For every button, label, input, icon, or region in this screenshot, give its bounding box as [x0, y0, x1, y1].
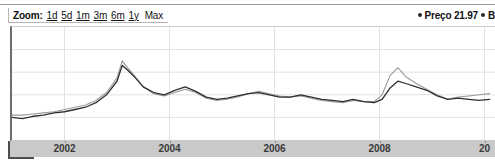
zoom-range-6m[interactable]: 6m	[111, 10, 125, 21]
corner-bracket	[8, 141, 34, 159]
x-axis-label-3: 2008	[368, 143, 390, 154]
series-line-preço	[12, 65, 490, 118]
zoom-range-max[interactable]: Max	[145, 10, 163, 21]
legend-bullet-icon	[481, 13, 485, 17]
x-axis-label-4: 20	[479, 143, 490, 154]
x-axis-label-1: 2004	[158, 143, 180, 154]
legend-label-secondary: B	[488, 10, 495, 21]
x-axis-tick	[65, 141, 66, 143]
x-axis-label-2: 2006	[263, 143, 285, 154]
plot-area[interactable]	[10, 26, 495, 141]
x-axis-tick	[170, 141, 171, 143]
legend-entry-secondary[interactable]: B	[481, 10, 495, 21]
top-divider	[0, 4, 495, 5]
zoom-range-5d[interactable]: 5d	[61, 10, 72, 21]
zoom-range-3m[interactable]: 3m	[94, 10, 108, 21]
zoom-range-1d[interactable]: 1d	[47, 10, 58, 21]
x-axis-band: 200220042006200820	[10, 141, 495, 157]
x-axis-tick	[380, 141, 381, 143]
x-axis-label-0: 2002	[53, 143, 75, 154]
legend-entry-price[interactable]: Preço 21.97	[418, 10, 478, 21]
stock-chart-widget: Zoom: 1d 5d 1m 3m 6m 1y Max Preço 21.97 …	[0, 0, 495, 165]
chart-svg	[12, 27, 495, 140]
legend-bullet-icon	[418, 13, 422, 17]
x-gridlines	[65, 27, 485, 140]
chart-legend: Preço 21.97 B	[415, 8, 495, 22]
legend-label-price: Preço 21.97	[425, 10, 478, 21]
zoom-range-1m[interactable]: 1m	[76, 10, 90, 21]
zoom-range-1y[interactable]: 1y	[129, 10, 139, 21]
zoom-toolbar: Zoom: 1d 5d 1m 3m 6m 1y Max	[8, 8, 168, 23]
series-lines	[12, 61, 490, 119]
zoom-label: Zoom:	[13, 10, 43, 21]
x-axis-tick	[275, 141, 276, 143]
x-axis-tick	[485, 141, 486, 143]
